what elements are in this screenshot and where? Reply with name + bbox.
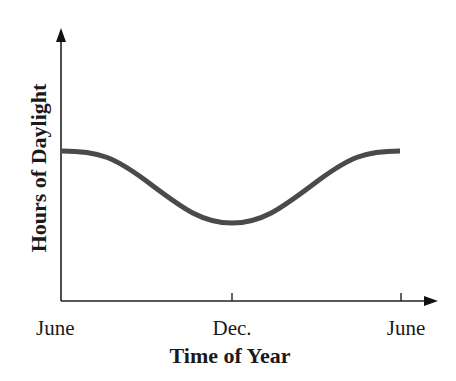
y-axis — [56, 28, 66, 301]
x-tick-label-dec: Dec. — [212, 316, 251, 340]
x-axis-arrow-icon — [424, 296, 438, 306]
y-axis-title: Hours of Daylight — [26, 83, 51, 252]
daylight-chart: June Dec. June Time of Year Hours of Day… — [0, 0, 456, 381]
y-axis-arrow-icon — [56, 28, 66, 42]
daylight-curve — [62, 151, 400, 223]
x-axis — [61, 293, 438, 306]
x-tick-label-june-end: June — [387, 316, 426, 340]
x-tick-label-june-start: June — [36, 316, 75, 340]
x-axis-title: Time of Year — [170, 343, 291, 368]
